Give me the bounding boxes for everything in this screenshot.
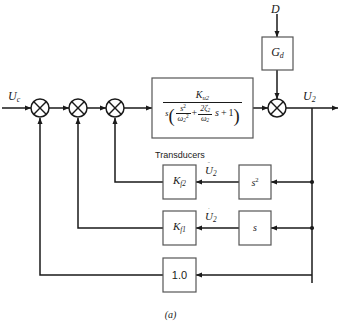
tap-dot-accel: [310, 180, 314, 184]
transducers-group-label: Transducers: [155, 151, 205, 160]
output-signal-label: U2: [303, 90, 316, 104]
cropped-header: CONTINUOUS: [266, 0, 341, 1]
wire-kf1-to-sum2: [78, 118, 163, 228]
wire-unity-to-sum1: [40, 118, 163, 275]
second-derivative-label: s2: [239, 165, 271, 199]
unity-feedback-label: 1.0: [163, 258, 196, 292]
block-diagram-figure: CONTINUOUS D Gd Uc U2 Ku2 s(s2ω22+2ζ2ω2s…: [0, 0, 341, 333]
accel-transducer-label: Kf2: [163, 165, 196, 199]
plant-numerator: Ku2: [163, 90, 242, 104]
disturbance-label: D: [271, 3, 280, 15]
input-signal-label: Uc: [8, 90, 20, 104]
rate-transducer-label: Kf1: [163, 211, 196, 245]
plant-denominator: s(s2ω22+2ζ2ω2s+1): [163, 103, 242, 126]
disturbance-gain-label: Gd: [262, 37, 293, 70]
accel-feedback-signal-label: ¨U2: [205, 165, 217, 178]
first-derivative-label: s: [239, 211, 271, 245]
figure-caption: (a): [0, 310, 341, 320]
tap-dot-rate: [310, 226, 314, 230]
rate-feedback-signal-label: ˙U2: [205, 211, 217, 224]
plant-transfer-function: Ku2 s(s2ω22+2ζ2ω2s+1): [152, 78, 253, 138]
